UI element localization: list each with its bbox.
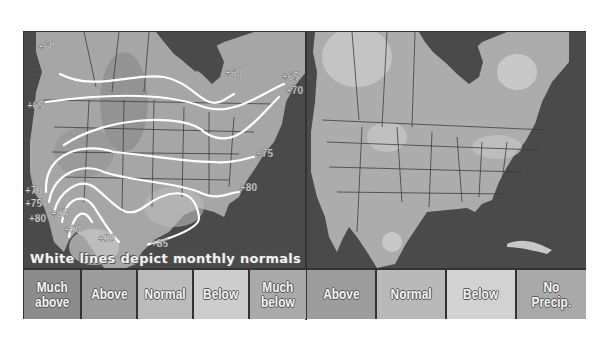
isotherm-label: +60	[225, 67, 242, 78]
isotherm-label: +65	[282, 71, 299, 82]
precipitation-map-graphic	[307, 32, 586, 268]
temperature-legend: Much above Above Normal Below Much below	[24, 268, 306, 319]
isotherm-label: +80	[29, 213, 46, 224]
isotherm-label: +85	[51, 208, 68, 219]
isotherm-label: +70	[25, 185, 42, 196]
map-caption: White lines depict monthly normals	[30, 251, 301, 266]
isotherm-label: +90	[98, 233, 115, 244]
legend-below: Below	[447, 270, 517, 319]
precipitation-legend: Above Normal Below No Precip.	[307, 268, 586, 319]
legend-no-precip: No Precip.	[517, 270, 586, 319]
temperature-map-graphic: +60 +60 +65 +65 +70 +75 +80 +70 +75 +80 …	[24, 32, 306, 268]
isotherm-label: +65	[27, 100, 44, 111]
isotherm-label: +80	[240, 182, 257, 193]
precipitation-map	[307, 32, 586, 268]
isotherm-label: +75	[256, 148, 273, 159]
legend-much-above: Much above	[24, 270, 82, 319]
isotherm-label: +85	[151, 238, 168, 249]
temperature-map: +60 +60 +65 +65 +70 +75 +80 +70 +75 +80 …	[24, 32, 306, 268]
legend-normal: Normal	[377, 270, 447, 319]
isotherm-label: +60	[38, 41, 55, 52]
isotherm-label: +70	[286, 85, 303, 96]
outlook-figure: +60 +60 +65 +65 +70 +75 +80 +70 +75 +80 …	[23, 31, 586, 319]
isotherm-label: +75	[25, 198, 42, 209]
legend-above: Above	[82, 270, 138, 319]
legend-above: Above	[307, 270, 377, 319]
legend-much-below: Much below	[250, 270, 306, 319]
legend-normal: Normal	[138, 270, 194, 319]
legend-below: Below	[194, 270, 250, 319]
isotherm-label: +90	[64, 224, 81, 235]
